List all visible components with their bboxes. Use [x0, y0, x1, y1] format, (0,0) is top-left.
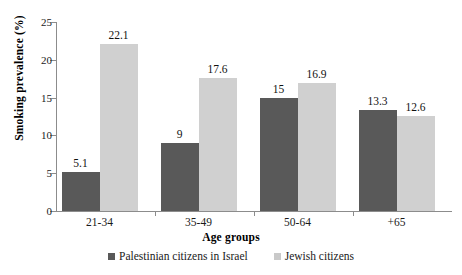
bar	[359, 110, 397, 211]
y-axis-tick-label: 5	[47, 168, 53, 179]
legend-label: Palestinian citizens in Israel	[119, 250, 248, 263]
x-axis-separator	[155, 211, 156, 216]
bar	[298, 83, 336, 211]
plot-area: 0510152025 5.122.1917.61516.913.312.6	[56, 22, 452, 211]
legend-swatch-icon	[108, 253, 115, 260]
chart-figure: 0510152025 5.122.1917.61516.913.312.6 21…	[0, 0, 462, 275]
y-axis-tick-label: 25	[41, 17, 52, 28]
bar	[199, 78, 237, 211]
x-axis-title: Age groups	[0, 231, 462, 243]
legend-item: Palestinian citizens in Israel	[108, 250, 248, 263]
bar-value-label: 16.9	[306, 68, 326, 80]
bar	[161, 143, 199, 211]
bar-value-label: 9	[177, 128, 183, 140]
y-axis-tick-label: 15	[41, 92, 52, 103]
x-axis-separator	[353, 211, 354, 216]
bar-value-label: 12.6	[405, 101, 425, 113]
bar-value-label: 5.1	[73, 157, 87, 169]
x-axis-separator	[254, 211, 255, 216]
bar	[397, 116, 435, 211]
x-axis-category-label: +65	[388, 216, 406, 229]
bar-value-label: 17.6	[207, 63, 227, 75]
x-axis-category-label: 35-49	[185, 216, 212, 229]
y-axis-tick-label: 20	[41, 54, 52, 65]
bar-value-label: 13.3	[367, 95, 387, 107]
legend-label: Jewish citizens	[285, 250, 354, 263]
legend-item: Jewish citizens	[274, 250, 354, 263]
bar-value-label: 15	[273, 83, 285, 95]
bar	[260, 98, 298, 211]
bar-value-label: 22.1	[108, 29, 128, 41]
y-axis-title: Smoking prevalence (%)	[13, 3, 25, 153]
chart-legend: Palestinian citizens in IsraelJewish cit…	[0, 250, 462, 263]
y-axis-tick-label: 0	[47, 206, 53, 217]
x-axis-category-label: 50-64	[284, 216, 311, 229]
bar	[62, 172, 100, 211]
legend-swatch-icon	[274, 253, 281, 260]
bar	[100, 44, 138, 211]
y-axis-tick-label: 10	[41, 130, 52, 141]
x-axis-category-label: 21-34	[86, 216, 113, 229]
